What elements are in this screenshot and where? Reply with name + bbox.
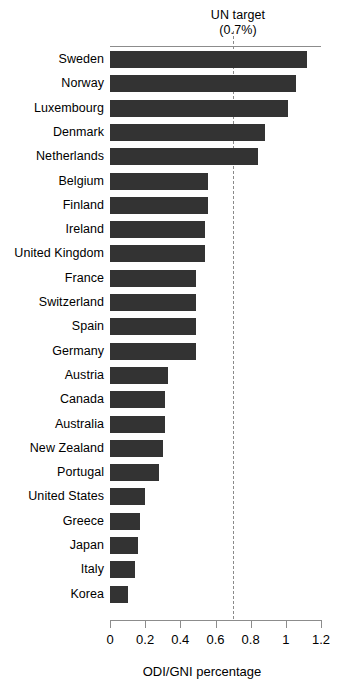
bar-category-label: France xyxy=(4,270,104,286)
bar-category-label: Norway xyxy=(4,75,104,91)
bar xyxy=(110,488,145,505)
bar-category-label: Netherlands xyxy=(4,148,104,164)
bar-row: United States xyxy=(0,484,340,508)
x-axis-tick xyxy=(286,620,287,628)
bar-category-label: Germany xyxy=(4,343,104,359)
bar xyxy=(110,391,165,408)
x-axis-tick xyxy=(145,620,146,628)
bar-category-label: Australia xyxy=(4,416,104,432)
bar-category-label: Finland xyxy=(4,197,104,213)
bar-category-label: Japan xyxy=(4,537,104,553)
bar xyxy=(110,221,205,238)
plot-area: SwedenNorwayLuxembourgDenmarkNetherlands… xyxy=(0,47,340,614)
bar-row: Sweden xyxy=(0,47,340,71)
bar xyxy=(110,51,307,68)
un-target-label-line2: (0.7%) xyxy=(186,23,290,38)
bar xyxy=(110,513,140,530)
bar xyxy=(110,416,165,433)
x-axis-tick xyxy=(180,620,181,628)
bar-row: Austria xyxy=(0,363,340,387)
x-axis-tick-label: 1.2 xyxy=(301,632,340,648)
bar xyxy=(110,561,135,578)
bar xyxy=(110,173,208,190)
bar-row: France xyxy=(0,266,340,290)
bar-row: Belgium xyxy=(0,169,340,193)
bar-row: Germany xyxy=(0,339,340,363)
bar-row: Norway xyxy=(0,71,340,95)
bar-row: Denmark xyxy=(0,120,340,144)
bar-category-label: Luxembourg xyxy=(4,100,104,116)
bar-row: Korea xyxy=(0,582,340,606)
bar xyxy=(110,318,196,335)
bar-category-label: United States xyxy=(4,488,104,504)
bar-category-label: Spain xyxy=(4,318,104,334)
bar-row: Australia xyxy=(0,412,340,436)
bar-row: Switzerland xyxy=(0,290,340,314)
x-axis-title: ODI/GNI percentage xyxy=(0,664,340,680)
bar xyxy=(110,245,205,262)
bar-category-label: Sweden xyxy=(4,51,104,67)
bar-row: Ireland xyxy=(0,217,340,241)
bar-category-label: Canada xyxy=(4,391,104,407)
bar-category-label: Denmark xyxy=(4,124,104,140)
bar-category-label: Ireland xyxy=(4,221,104,237)
x-axis-tick-label: 0.6 xyxy=(196,632,236,648)
x-axis-tick xyxy=(321,620,322,628)
bar-row: Canada xyxy=(0,387,340,411)
bar-category-label: Austria xyxy=(4,367,104,383)
un-target-label-line1: UN target xyxy=(211,8,265,22)
bar xyxy=(110,537,138,554)
bar-row: United Kingdom xyxy=(0,241,340,265)
odi-gni-bar-chart: UN target (0.7%) SwedenNorwayLuxembourgD… xyxy=(0,0,340,694)
bar-category-label: United Kingdom xyxy=(4,245,104,261)
x-axis-tick xyxy=(216,620,217,628)
bar xyxy=(110,75,296,92)
bar-category-label: New Zealand xyxy=(4,440,104,456)
bar-category-label: Korea xyxy=(4,586,104,602)
x-axis-tick-label: 0.8 xyxy=(231,632,271,648)
bar xyxy=(110,440,163,457)
bar-row: Portugal xyxy=(0,460,340,484)
bar xyxy=(110,294,196,311)
bar-category-label: Belgium xyxy=(4,173,104,189)
x-axis-tick xyxy=(251,620,252,628)
bar-row: Greece xyxy=(0,509,340,533)
bar xyxy=(110,148,258,165)
bar-row: Japan xyxy=(0,533,340,557)
x-axis-tick xyxy=(110,620,111,628)
x-axis-tick-label: 0.2 xyxy=(125,632,165,648)
bar-category-label: Portugal xyxy=(4,464,104,480)
x-axis-tick-label: 1 xyxy=(266,632,306,648)
bar xyxy=(110,464,159,481)
x-axis-tick-label: 0 xyxy=(90,632,130,648)
bar-row: New Zealand xyxy=(0,436,340,460)
x-axis-tick-label: 0.4 xyxy=(160,632,200,648)
bar-row: Finland xyxy=(0,193,340,217)
bar-row: Netherlands xyxy=(0,144,340,168)
bar xyxy=(110,343,196,360)
bar-row: Luxembourg xyxy=(0,96,340,120)
bar-category-label: Greece xyxy=(4,513,104,529)
bar xyxy=(110,586,128,603)
bar xyxy=(110,270,196,287)
un-target-annotation-label: UN target (0.7%) xyxy=(186,8,290,38)
bar xyxy=(110,197,208,214)
bar xyxy=(110,100,288,117)
bar-category-label: Switzerland xyxy=(4,294,104,310)
bar-row: Spain xyxy=(0,314,340,338)
bar xyxy=(110,367,168,384)
bar-row: Italy xyxy=(0,557,340,581)
bar xyxy=(110,124,265,141)
bar-category-label: Italy xyxy=(4,561,104,577)
